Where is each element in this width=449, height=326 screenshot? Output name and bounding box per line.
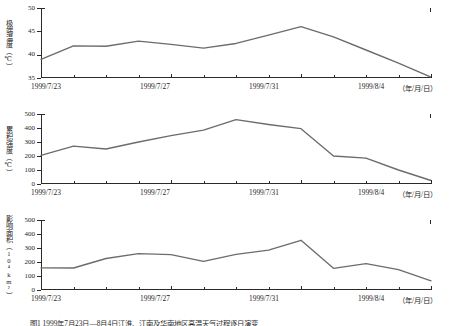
y-tick-label: 100 — [13, 166, 35, 174]
y-tick: 0 — [37, 290, 41, 291]
x-tick — [399, 181, 400, 184]
x-tick — [431, 180, 432, 184]
x-tick — [41, 74, 42, 78]
y-tick-label: 500 — [13, 216, 35, 224]
y-tick-label: 400 — [13, 230, 35, 238]
x-tick — [139, 75, 140, 78]
x-tick-label-1: 1999/7/27 — [140, 294, 170, 303]
y-tick: 400 — [37, 128, 41, 129]
x-tick — [431, 286, 432, 290]
y-tick-label: 300 — [13, 138, 35, 146]
x-tick — [431, 74, 432, 78]
x-tick — [236, 75, 237, 78]
figure-caption: 图1 1999年7月23日—8月4日江淮、江南及华南地区高温天气过程逐日演变 — [30, 317, 440, 326]
x-tick — [334, 75, 335, 78]
x-tick — [74, 181, 75, 184]
x-tick — [139, 181, 140, 184]
y-tick: 50 — [37, 8, 41, 9]
y-tick: 500 — [37, 220, 41, 221]
x-tick — [334, 287, 335, 290]
plot-area-extreme-temperature: 35404550 — [41, 8, 431, 78]
y-tick: 100 — [37, 276, 41, 277]
y-tick-label: 45 — [13, 27, 35, 35]
chart-panel-affected-area: 影响面积（10⁴km²） 0100200300400500 1999/7/23 … — [0, 212, 449, 319]
x-tick-label-0: 1999/7/23 — [31, 188, 61, 197]
x-tick-label-3: 1999/8/4 — [358, 294, 384, 303]
series-line-extreme-temperature — [41, 8, 431, 78]
y-tick: 200 — [37, 156, 41, 157]
y-tick-label: 200 — [13, 258, 35, 266]
y-tick: 100 — [37, 170, 41, 171]
x-tick — [106, 181, 107, 184]
x-tick — [301, 74, 302, 78]
x-tick-label-3: 1999/8/4 — [358, 188, 384, 197]
x-tick — [106, 287, 107, 290]
y-tick-label: 300 — [13, 244, 35, 252]
x-tick — [41, 180, 42, 184]
x-tick — [74, 75, 75, 78]
x-tick — [204, 181, 205, 184]
x-tick-label-0: 1999/7/23 — [31, 294, 61, 303]
x-tick — [366, 287, 367, 290]
plot-area-affected-area: 0100200300400500 — [41, 220, 431, 290]
y-tick-label: 35 — [13, 74, 35, 82]
x-tick — [236, 181, 237, 184]
x-axis-unit-label: （年/月/日） — [398, 82, 437, 93]
x-tick — [204, 287, 205, 290]
x-axis-label-group-2: 1999/7/23 1999/7/27 1999/7/31 1999/8/4 （… — [0, 294, 449, 306]
y-tick: 400 — [37, 234, 41, 235]
y-axis-label-text: 累积强度 — [4, 126, 11, 154]
y-tick: 200 — [37, 262, 41, 263]
y-axis-label-text: 影响面积 — [4, 215, 11, 243]
x-tick — [269, 287, 270, 290]
x-tick — [74, 287, 75, 290]
y-axis-unit-text: （10⁴km²） — [5, 243, 12, 299]
x-tick — [269, 181, 270, 184]
y-tick-label: 40 — [13, 50, 35, 58]
x-tick — [106, 75, 107, 78]
y-tick-label: 0 — [13, 180, 35, 188]
x-tick — [171, 180, 172, 184]
x-tick — [139, 287, 140, 290]
series-line-affected-area — [41, 220, 431, 290]
x-tick-label-1: 1999/7/27 — [140, 82, 170, 91]
x-tick — [204, 75, 205, 78]
x-tick-label-1: 1999/7/27 — [140, 188, 170, 197]
x-tick — [269, 75, 270, 78]
x-tick — [334, 181, 335, 184]
y-tick-label: 100 — [13, 272, 35, 280]
series-line-cumulative-intensity — [41, 114, 431, 184]
y-tick: 500 — [37, 114, 41, 115]
x-tick-label-2: 1999/7/31 — [249, 294, 279, 303]
y-axis-unit-text: （℃） — [5, 48, 12, 70]
x-tick — [171, 286, 172, 290]
y-tick: 300 — [37, 142, 41, 143]
x-tick — [41, 286, 42, 290]
y-tick: 40 — [37, 55, 41, 56]
y-axis-label-text: 极端温度 — [4, 20, 11, 48]
y-tick: 35 — [37, 78, 41, 79]
chart-panel-extreme-temperature: 极端温度（℃） 35404550 1999/7/23 1999/7/27 199… — [0, 0, 449, 107]
y-tick: 0 — [37, 184, 41, 185]
x-tick — [399, 75, 400, 78]
x-tick — [366, 75, 367, 78]
x-axis-unit-label: （年/月/日） — [398, 294, 437, 305]
x-axis-label-group-1: 1999/7/23 1999/7/27 1999/7/31 1999/8/4 （… — [0, 188, 449, 200]
y-tick: 45 — [37, 31, 41, 32]
x-tick — [171, 74, 172, 78]
x-tick-label-0: 1999/7/23 — [31, 82, 61, 91]
x-tick-label-2: 1999/7/31 — [249, 188, 279, 197]
plot-area-cumulative-intensity: 0100200300400500 — [41, 114, 431, 184]
x-tick-label-3: 1999/8/4 — [358, 82, 384, 91]
y-tick-label: 500 — [13, 110, 35, 118]
chart-panel-cumulative-intensity: 累积强度（℃） 0100200300400500 1999/7/23 1999/… — [0, 106, 449, 213]
x-axis-label-group-0: 1999/7/23 1999/7/27 1999/7/31 1999/8/4 （… — [0, 82, 449, 94]
y-axis-label-extreme-temperature: 极端温度（℃） — [1, 6, 15, 84]
y-tick-label: 50 — [13, 4, 35, 12]
x-tick — [301, 286, 302, 290]
y-axis-unit-text: （℃） — [5, 154, 12, 176]
x-tick — [301, 180, 302, 184]
x-tick — [366, 181, 367, 184]
y-tick: 300 — [37, 248, 41, 249]
